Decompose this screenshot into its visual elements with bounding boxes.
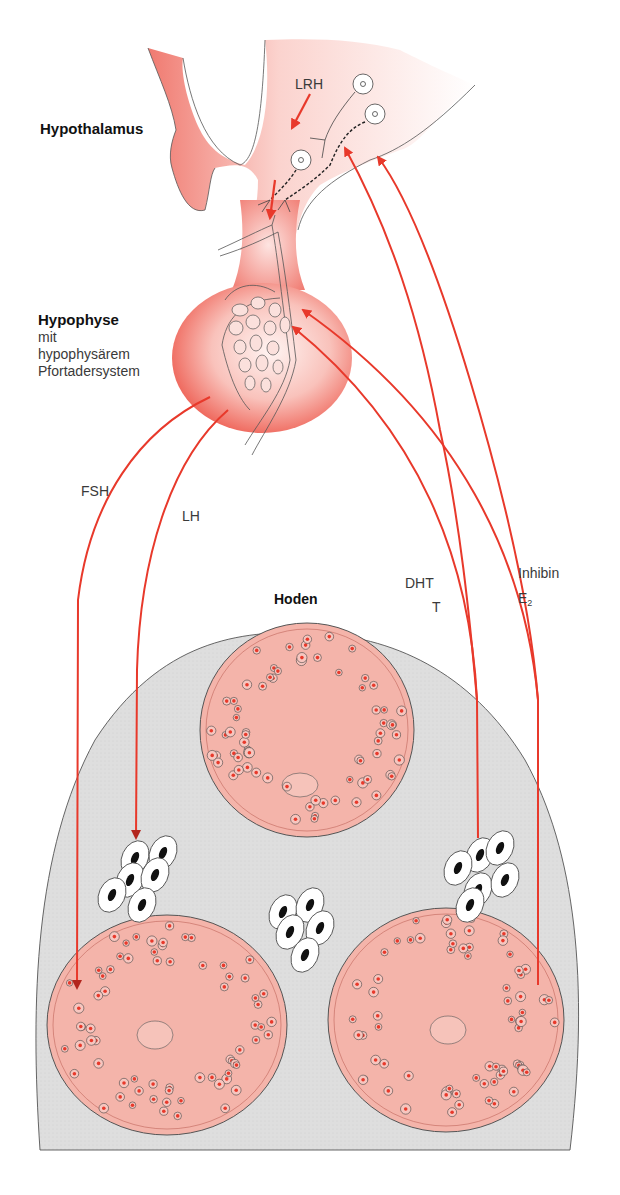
germ-cell-nucleus <box>268 676 272 680</box>
germ-cell-nucleus <box>357 1033 361 1037</box>
germ-cell-nucleus <box>407 1074 411 1078</box>
germ-cell-nucleus <box>488 1065 492 1069</box>
label-lrh: LRH <box>295 76 323 93</box>
germ-cell-nucleus <box>337 671 341 675</box>
germ-cell-nucleus <box>391 723 395 727</box>
germ-cell-nucleus <box>133 1077 137 1081</box>
germ-cell-nucleus <box>78 1044 82 1048</box>
germ-cell-nucleus <box>395 733 399 737</box>
germ-cell-nucleus <box>517 969 521 973</box>
germ-cell-nucleus <box>246 766 250 770</box>
germ-cell-nucleus <box>455 1092 459 1096</box>
germ-cell-nucleus <box>122 1081 126 1085</box>
germ-cell-nucleus <box>508 953 512 957</box>
label-hypophysaerem: hypophysärem <box>38 346 130 363</box>
germ-cell-nucleus <box>361 686 365 690</box>
germ-cell-nucleus <box>334 799 338 803</box>
germ-cell-nucleus <box>229 730 233 734</box>
germ-cell-nucleus <box>90 1039 94 1043</box>
germ-cell-nucleus <box>73 1072 77 1076</box>
label-hypothalamus: Hypothalamus <box>40 120 143 137</box>
germ-cell-nucleus <box>377 1025 381 1029</box>
germ-cell-nucleus <box>525 1071 529 1075</box>
germ-cell-nucleus <box>355 983 359 987</box>
germ-cell-nucleus <box>474 1076 478 1080</box>
germ-cell-nucleus <box>404 1107 408 1111</box>
neuron-2 <box>365 104 385 124</box>
germ-cell-nucleus <box>382 1062 386 1066</box>
germ-cell-nucleus <box>216 761 220 765</box>
germ-cell-nucleus <box>232 774 236 778</box>
germ-cell-nucleus <box>390 775 394 779</box>
germ-cell-nucleus <box>245 683 249 687</box>
germ-cell-nucleus <box>259 1025 263 1029</box>
germ-cell-nucleus <box>328 635 332 639</box>
germ-cell-nucleus <box>387 1089 391 1093</box>
germ-cell-nucleus <box>285 785 289 789</box>
germ-cell-nucleus <box>348 778 352 782</box>
germ-cell-nucleus <box>398 758 402 762</box>
germ-cell-nucleus <box>210 754 214 758</box>
germ-cell-nucleus <box>451 942 455 946</box>
label-dht: DHT <box>405 575 434 592</box>
germ-cell-nucleus <box>363 676 367 680</box>
germ-cell-nucleus <box>243 976 247 980</box>
germ-cell-nucleus <box>350 647 354 651</box>
germ-cell-nucleus <box>519 1020 523 1024</box>
germ-cell-nucleus <box>444 1093 448 1097</box>
label-hypophyse: Hypophyse <box>38 311 119 328</box>
germ-cell-nucleus <box>176 1114 180 1118</box>
germ-cell-nucleus <box>97 1062 101 1066</box>
germ-cell-nucleus <box>493 1102 497 1106</box>
label-inhibin: Inhibin <box>518 565 559 582</box>
germ-cell-nucleus <box>300 656 304 660</box>
germ-cell-nucleus <box>266 776 270 780</box>
germ-cell-nucleus <box>376 739 380 743</box>
germ-cell-nucleus <box>374 708 378 712</box>
germ-cell-nucleus <box>449 948 453 952</box>
germ-cell-nucleus <box>225 1077 229 1081</box>
germ-cell-nucleus <box>366 778 370 782</box>
germ-cell-nucleus <box>118 1095 122 1099</box>
germ-cell-nucleus <box>351 1018 355 1022</box>
germ-cell-nucleus <box>244 733 248 737</box>
germ-cell-nucleus <box>547 998 551 1002</box>
germ-cell-nucleus <box>448 1087 452 1091</box>
germ-cell-nucleus <box>510 1018 514 1022</box>
germ-cell-nucleus <box>165 1101 169 1105</box>
germ-cell-nucleus <box>409 938 413 942</box>
germ-cell-nucleus <box>222 964 226 968</box>
germ-cell-nucleus <box>519 995 523 999</box>
germ-cell-nucleus <box>103 990 107 994</box>
germ-cell-nucleus <box>118 955 122 959</box>
label-t: T <box>432 599 441 616</box>
germ-cell-nucleus <box>502 932 506 936</box>
germ-cell-nucleus <box>156 959 160 963</box>
germ-cell-nucleus <box>466 954 470 958</box>
label-pfortadersystem: Pfortadersystem <box>38 363 140 380</box>
germ-cell-nucleus <box>288 645 292 649</box>
germ-cell-nucleus <box>254 771 258 775</box>
germ-cell-nucleus <box>210 1076 214 1080</box>
germ-cell-nucleus <box>524 968 528 972</box>
germ-cell-nucleus <box>521 1011 525 1015</box>
label-lh: LH <box>182 508 200 525</box>
germ-cell-nucleus <box>449 932 453 936</box>
germ-cell-nucleus <box>190 936 194 940</box>
germ-cell-nucleus <box>313 817 317 821</box>
germ-cell-nucleus <box>124 941 128 945</box>
germ-cell-nucleus <box>234 1088 238 1092</box>
germ-cell-nucleus <box>512 1090 516 1094</box>
germ-cell-nucleus <box>236 756 240 760</box>
germ-cell-nucleus <box>63 1047 67 1051</box>
germ-cell-nucleus <box>113 935 117 939</box>
germ-cell-nucleus <box>502 1069 506 1073</box>
germ-cell-nucleus <box>372 990 376 994</box>
germ-cell-nucleus <box>255 649 259 653</box>
germ-cell-nucleus <box>400 709 404 713</box>
germ-cell-nucleus <box>501 939 505 943</box>
germ-cell-nucleus <box>68 981 72 985</box>
label-e2-sub: 2 <box>527 598 532 608</box>
germ-cell-nucleus <box>102 1106 106 1110</box>
germ-cell-nucleus <box>127 957 131 961</box>
